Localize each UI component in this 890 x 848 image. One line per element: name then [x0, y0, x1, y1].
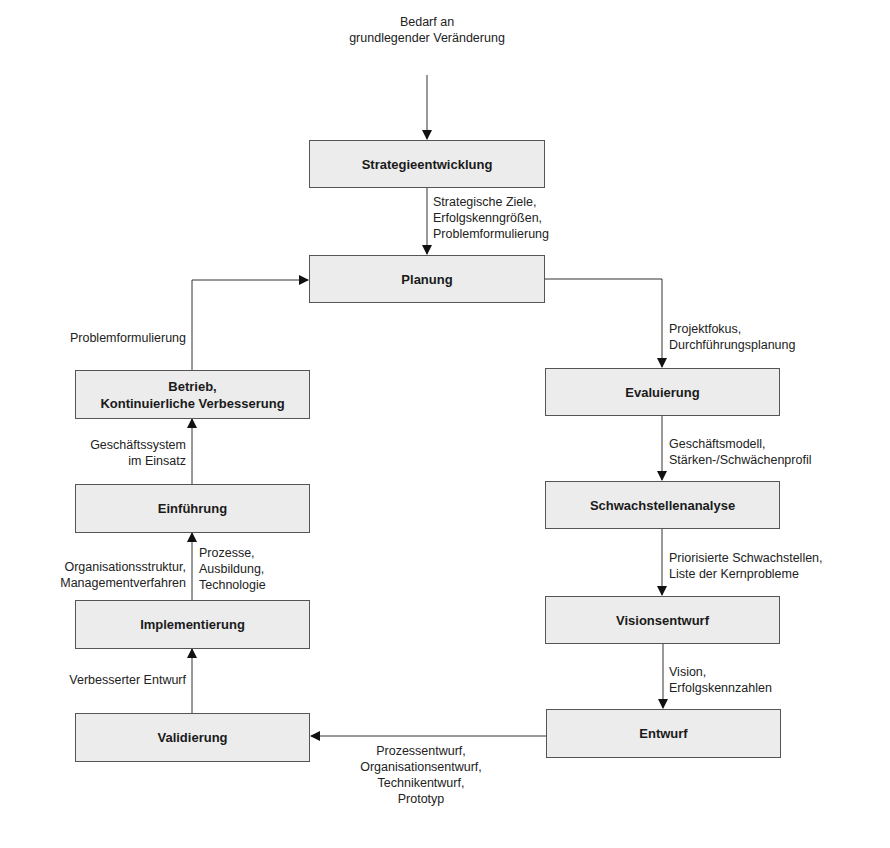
- edge-label-betrieb-planung: Problemformulierung: [20, 330, 186, 346]
- edge-label-line: Vision,: [669, 664, 772, 680]
- box-label: Betrieb,: [168, 378, 216, 395]
- edge-label-planung-evaluierung: Projektfokus, Durchführungsplanung: [669, 321, 795, 353]
- box-label: Evaluierung: [625, 384, 699, 401]
- edge-label-strategie-planung: Strategische Ziele, Erfolgskenngrößen, P…: [433, 194, 549, 242]
- box-einfuehrung: Einführung: [75, 484, 310, 533]
- edge-label-line: Verbesserter Entwurf: [20, 672, 186, 688]
- box-label: Implementierung: [140, 616, 245, 633]
- edge-label-line: Erfolgskennzahlen: [669, 680, 772, 696]
- edge-label-line: Stärken-/Schwächenprofil: [669, 452, 811, 468]
- edge-label-validierung-implementierung: Verbesserter Entwurf: [20, 672, 186, 688]
- box-label: Planung: [401, 271, 452, 288]
- box-entwurf: Entwurf: [546, 709, 781, 758]
- edge-label-vision-entwurf: Vision, Erfolgskennzahlen: [669, 664, 772, 696]
- input-label-line: Bedarf an: [336, 14, 518, 30]
- box-validierung: Validierung: [75, 713, 310, 762]
- edge-label-einfuehrung-betrieb: Geschäftssystem im Einsatz: [20, 437, 186, 469]
- edge-label-line: Problemformulierung: [433, 226, 549, 242]
- box-planung: Planung: [309, 255, 545, 303]
- box-label: Visionsentwurf: [616, 612, 709, 629]
- edge-label-implementierung-einfuehrung-right: Prozesse, Ausbildung, Technologie: [199, 545, 266, 593]
- edge-label-line: Ausbildung,: [199, 561, 266, 577]
- input-label-line: grundlegender Veränderung: [336, 30, 518, 46]
- box-label: Validierung: [157, 729, 227, 746]
- edge-label-line: Organisationsstruktur,: [20, 559, 186, 575]
- edge-label-line: Geschäftsmodell,: [669, 436, 811, 452]
- edge-label-line: Prozesse,: [199, 545, 266, 561]
- box-betrieb: Betrieb, Kontinuierliche Verbesserung: [75, 370, 310, 419]
- edge-label-line: Prozessentwurf,: [346, 743, 496, 759]
- box-label: Entwurf: [639, 725, 687, 742]
- edge-label-line: Strategische Ziele,: [433, 194, 549, 210]
- box-label: Kontinuierliche Verbesserung: [100, 395, 284, 412]
- edge-label-implementierung-einfuehrung-left: Organisationsstruktur, Managementverfahr…: [20, 559, 186, 591]
- edge-label-line: Technologie: [199, 577, 266, 593]
- edge-label-line: Managementverfahren: [20, 575, 186, 591]
- box-label: Einführung: [158, 500, 227, 517]
- edge-label-evaluierung-schwachstellen: Geschäftsmodell, Stärken-/Schwächenprofi…: [669, 436, 811, 468]
- edge-label-line: Problemformulierung: [20, 330, 186, 346]
- box-strategieentwicklung: Strategieentwicklung: [309, 140, 545, 188]
- edge-label-line: Technikentwurf,: [346, 775, 496, 791]
- box-schwachstellenanalyse: Schwachstellenanalyse: [545, 481, 780, 529]
- edge-label-line: Priorisierte Schwachstellen,: [669, 550, 823, 566]
- edge-label-line: Prototyp: [346, 791, 496, 807]
- edge-label-line: Geschäftssystem: [20, 437, 186, 453]
- edge-label-line: Liste der Kernprobleme: [669, 566, 823, 582]
- edge-label-line: im Einsatz: [20, 453, 186, 469]
- edge-label-schwachstellen-vision: Priorisierte Schwachstellen, Liste der K…: [669, 550, 823, 582]
- edge-label-entwurf-validierung: Prozessentwurf, Organisationsentwurf, Te…: [346, 743, 496, 807]
- edge-label-line: Organisationsentwurf,: [346, 759, 496, 775]
- input-label: Bedarf an grundlegender Veränderung: [336, 14, 518, 46]
- box-evaluierung: Evaluierung: [545, 368, 780, 416]
- edge-label-line: Projektfokus,: [669, 321, 795, 337]
- box-implementierung: Implementierung: [75, 600, 310, 649]
- edge-label-line: Durchführungsplanung: [669, 337, 795, 353]
- box-label: Schwachstellenanalyse: [590, 497, 735, 514]
- edge-label-line: Erfolgskenngrößen,: [433, 210, 549, 226]
- box-label: Strategieentwicklung: [362, 156, 493, 173]
- box-visionsentwurf: Visionsentwurf: [545, 596, 780, 644]
